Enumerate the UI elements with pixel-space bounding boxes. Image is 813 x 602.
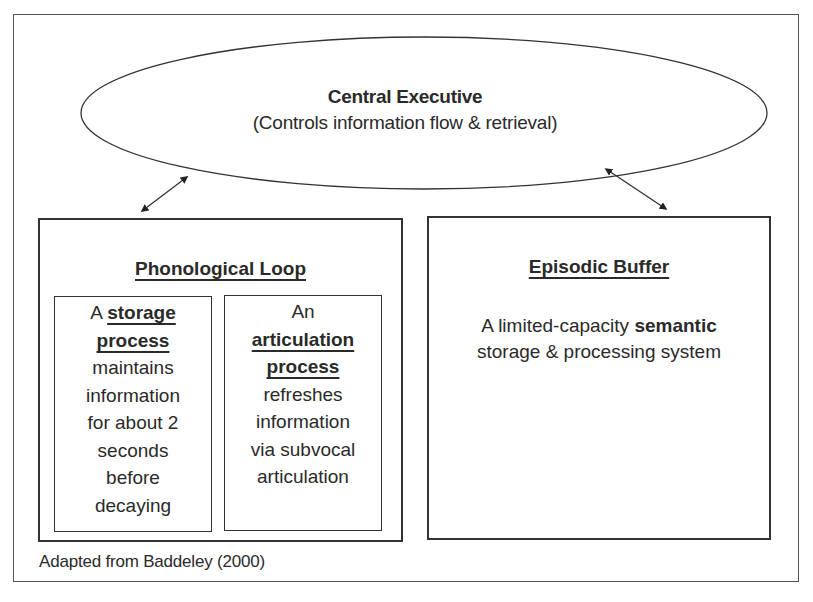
storage-line: decaying bbox=[55, 492, 211, 520]
episodic-desc-line2: storage & processing system bbox=[429, 339, 769, 365]
central-executive-title: Central Executive bbox=[150, 86, 660, 108]
episodic-buffer-description: A limited-capacity semantic storage & pr… bbox=[429, 313, 769, 365]
storage-line: seconds bbox=[55, 437, 211, 465]
storage-process-box: A storage process maintains information … bbox=[54, 296, 212, 532]
storage-line: maintains bbox=[55, 354, 211, 382]
articulation-line: information bbox=[225, 408, 381, 436]
articulation-process-keyword: process bbox=[267, 356, 340, 377]
storage-line: before bbox=[55, 464, 211, 492]
articulation-line: via subvocal bbox=[225, 436, 381, 464]
articulation-prefix: An bbox=[225, 298, 381, 326]
episodic-buffer-box: Episodic Buffer A limited-capacity seman… bbox=[427, 216, 771, 540]
storage-keyword: storage bbox=[107, 302, 176, 323]
arrow-ce-episodic bbox=[606, 169, 666, 209]
episodic-desc-text: A limited-capacity bbox=[481, 315, 634, 336]
central-executive-subtitle: (Controls information flow & retrieval) bbox=[150, 112, 660, 134]
arrow-ce-phonological bbox=[142, 177, 187, 211]
articulation-line: articulation bbox=[225, 463, 381, 491]
articulation-line: refreshes bbox=[225, 381, 381, 409]
episodic-buffer-title: Episodic Buffer bbox=[529, 256, 669, 277]
storage-prefix: A bbox=[90, 302, 102, 323]
phonological-loop-box: Phonological Loop A storage process main… bbox=[38, 218, 403, 542]
episodic-desc-keyword: semantic bbox=[634, 315, 716, 336]
phonological-loop-title: Phonological Loop bbox=[135, 258, 306, 279]
central-executive: Central Executive (Controls information … bbox=[150, 86, 660, 134]
storage-line: information bbox=[55, 382, 211, 410]
storage-process-keyword: process bbox=[97, 330, 170, 351]
storage-line: for about 2 bbox=[55, 409, 211, 437]
articulation-process-box: An articulation process refreshes inform… bbox=[224, 295, 382, 531]
articulation-keyword: articulation bbox=[252, 329, 354, 350]
source-caption: Adapted from Baddeley (2000) bbox=[39, 552, 265, 572]
